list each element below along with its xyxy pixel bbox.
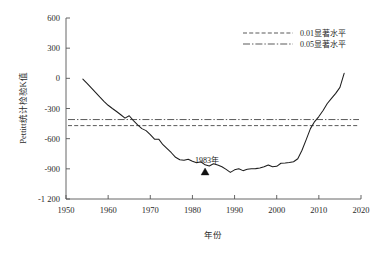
annotation-label: 1983年 (195, 155, 219, 165)
x-tick-label: 1990 (226, 205, 243, 215)
y-tick-label: -300 (44, 104, 60, 114)
x-tick-label: 2020 (353, 205, 370, 215)
pettitt-test-chart: 6003000-300-600-900-1 200 19501960197019… (0, 0, 381, 257)
x-tick-label: 1950 (58, 205, 75, 215)
x-tick-label: 1960 (100, 205, 117, 215)
x-axis-ticks: 19501960197019801990200020102020 (58, 195, 370, 215)
y-tick-label: -600 (44, 134, 60, 144)
y-tick-label: 300 (47, 43, 60, 53)
x-axis-title: 年份 (204, 230, 222, 240)
chart-legend: 0.01显著水平0.05显著水平 (243, 28, 346, 49)
y-tick-label: 600 (47, 13, 60, 23)
y-tick-label: -900 (44, 164, 60, 174)
minimum-triangle-marker (201, 168, 209, 175)
x-tick-label: 1970 (142, 205, 159, 215)
y-axis-title: Pettitt统计检验K值 (18, 72, 28, 143)
y-axis-ticks: 6003000-300-600-900-1 200 (38, 13, 70, 204)
x-tick-label: 1980 (184, 205, 201, 215)
x-tick-label: 2010 (310, 205, 327, 215)
legend-label: 0.01显著水平 (300, 28, 346, 38)
x-tick-label: 2000 (268, 205, 285, 215)
y-tick-label: 0 (56, 73, 60, 83)
legend-label: 0.05显著水平 (300, 39, 346, 49)
chart-canvas: 6003000-300-600-900-1 200 19501960197019… (0, 0, 381, 257)
y-tick-label: -1 200 (38, 194, 60, 204)
